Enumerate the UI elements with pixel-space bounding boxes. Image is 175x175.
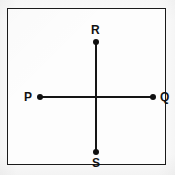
figure-screenshot: P Q R S (0, 0, 175, 175)
point-q-label: Q (160, 91, 169, 103)
point-q-dot (150, 94, 156, 100)
point-p-label: P (24, 91, 32, 103)
point-p-dot (37, 94, 43, 100)
point-s-dot (93, 149, 99, 155)
frame-shading (8, 9, 165, 164)
point-r-dot (93, 39, 99, 45)
segment-rs (95, 42, 97, 152)
figure-frame: P Q R S (7, 8, 166, 165)
point-r-label: R (91, 24, 100, 36)
caption-clipped (0, 168, 175, 175)
